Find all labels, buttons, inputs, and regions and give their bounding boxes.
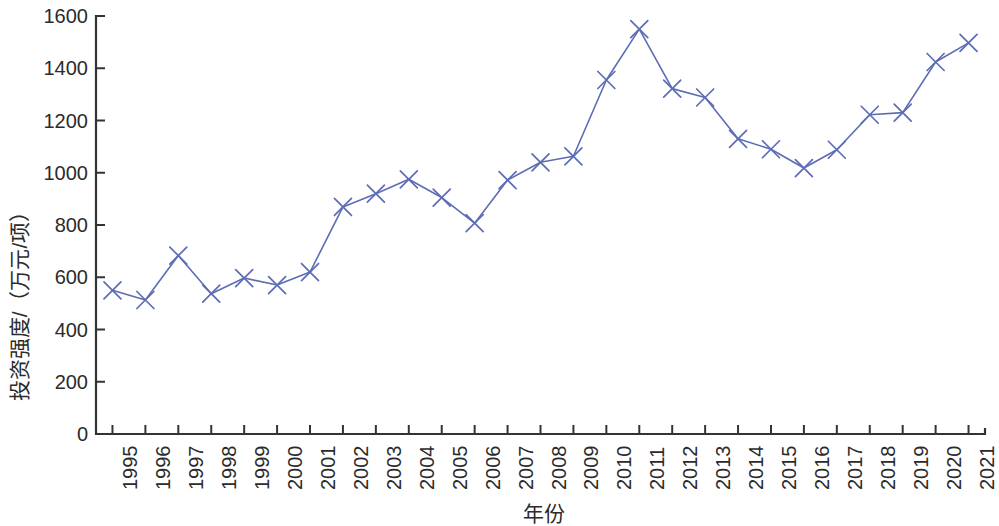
y-axis-tick-label: 600	[30, 266, 88, 289]
x-axis-tick-label: 2002	[350, 446, 373, 491]
x-axis-tick-label: 2016	[811, 446, 834, 491]
data-point-marker	[104, 282, 121, 299]
x-axis-tick-label: 2000	[284, 446, 307, 491]
data-point-marker	[795, 160, 812, 177]
y-axis-tick-label: 200	[30, 370, 88, 393]
y-axis-tick-label: 1600	[30, 5, 88, 28]
x-axis-tick-label: 2011	[646, 447, 669, 490]
x-axis-tick-label: 2014	[745, 446, 768, 491]
data-point-marker	[565, 148, 582, 165]
axis-frame	[96, 16, 985, 434]
data-point-marker	[598, 72, 615, 89]
data-point-marker	[960, 34, 977, 51]
data-point-marker	[664, 80, 681, 97]
x-axis-tick-label: 1999	[251, 446, 274, 491]
data-point-marker	[927, 53, 944, 70]
data-point-marker	[433, 189, 450, 206]
y-axis-tick-label: 0	[30, 423, 88, 446]
x-axis-tick-label: 2007	[515, 446, 538, 491]
x-axis-tick-label: 2018	[877, 446, 900, 491]
y-axis-tick-label: 400	[30, 318, 88, 341]
x-axis-tick-label: 2005	[449, 446, 472, 491]
x-axis-tick-label: 1997	[185, 446, 208, 491]
data-point-marker	[236, 270, 253, 287]
data-point-marker	[170, 247, 187, 264]
data-point-marker	[730, 130, 747, 147]
x-axis-tick-label: 2020	[943, 446, 966, 491]
data-point-marker	[334, 198, 351, 215]
x-axis-tick-label: 2006	[482, 446, 505, 491]
y-axis-tick-label: 1000	[30, 161, 88, 184]
x-axis-tick-label: 2019	[910, 446, 933, 491]
x-axis-tick-label: 2013	[712, 446, 735, 491]
x-axis-tick-label: 2008	[548, 446, 571, 491]
data-point-marker	[828, 141, 845, 158]
data-point-marker	[203, 285, 220, 302]
x-axis-tick-label: 1998	[218, 446, 241, 491]
x-axis-tick-label: 2021	[976, 446, 999, 491]
data-point-marker	[631, 21, 648, 38]
y-axis-tick-label: 800	[30, 214, 88, 237]
x-axis-tick-label: 2017	[844, 446, 867, 491]
data-point-marker	[762, 141, 779, 158]
data-point-marker	[269, 277, 286, 294]
x-axis-tick-label: 2015	[778, 446, 801, 491]
x-axis-title: 年份	[96, 497, 991, 526]
x-axis-tick-label: 2003	[383, 446, 406, 491]
data-point-marker	[532, 154, 549, 171]
data-point-marker	[466, 215, 483, 232]
series-line	[112, 29, 968, 300]
x-axis-tick-label: 1995	[119, 446, 142, 491]
x-axis-tick-label: 2009	[580, 446, 603, 491]
data-point-marker	[499, 172, 516, 189]
data-point-marker	[137, 291, 154, 308]
x-axis-tick-label: 1996	[152, 446, 175, 491]
data-point-marker	[697, 89, 714, 106]
series-markers	[104, 21, 977, 309]
x-axis-tick-label: 2001	[317, 446, 340, 491]
data-point-marker	[367, 185, 384, 202]
x-axis-tick-label: 2010	[613, 446, 636, 491]
y-axis-tick-label: 1200	[30, 109, 88, 132]
data-point-marker	[302, 264, 319, 281]
x-axis-tick-label: 2012	[679, 446, 702, 491]
data-point-marker	[400, 171, 417, 188]
y-axis-tick-label: 1400	[30, 57, 88, 80]
x-axis-tick-label: 2004	[416, 446, 439, 491]
